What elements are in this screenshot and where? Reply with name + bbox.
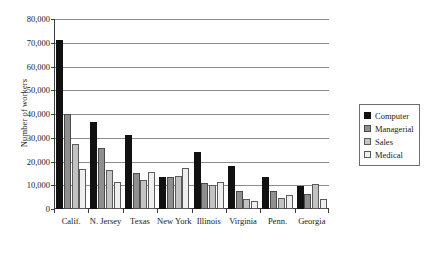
bar-medical [182,168,189,209]
bar-group: New York [157,19,191,209]
bar-group: Virginia [226,19,260,209]
y-axis-tick-label: 60,000 [27,62,50,72]
bar-computer [56,40,63,209]
clipped-caption-strip [0,248,441,262]
x-axis-tick-mark [260,209,261,213]
bar-managerial [133,173,140,209]
legend-label: Sales [375,137,393,147]
bar-computer [262,177,269,209]
x-axis-tick-mark [157,209,158,213]
legend-label: Medical [375,150,403,160]
bar-computer [297,186,304,210]
y-axis-tick-label: 0 [46,204,50,214]
bar-chart-figure: Number of workers 010,00020,00030,00040,… [0,0,441,262]
legend-item: Medical [364,148,414,161]
legend-label: Managerial [375,124,414,134]
bar-computer [90,122,97,209]
bar-managerial [98,148,105,209]
x-axis-tick-label: N. Jersey [90,216,122,226]
bar-managerial [64,114,71,209]
bar-medical [320,199,327,209]
bar-sales [312,184,319,209]
y-axis-tick-label: 20,000 [27,157,50,167]
x-axis-tick-mark [295,209,296,213]
bar-group: Calif. [54,19,88,209]
y-axis-tick-label: 50,000 [27,85,50,95]
legend-swatch-icon [364,125,371,132]
bar-group: N. Jersey [88,19,122,209]
x-axis-tick-mark [192,209,193,213]
y-axis-tick-label: 70,000 [27,38,50,48]
legend-swatch-icon [364,112,371,119]
bar-computer [194,152,201,209]
x-axis-tick-label: Calif. [62,216,81,226]
x-axis-tick-label: Virginia [229,216,257,226]
legend-swatch-icon [364,151,371,158]
bar-managerial [167,177,174,209]
bar-sales [209,185,216,209]
bar-group: Illinois [192,19,226,209]
bar-sales [278,198,285,209]
x-axis-tick-mark [226,209,227,213]
y-axis-tick-label: 80,000 [27,14,50,24]
y-axis-tick-label: 10,000 [27,180,50,190]
x-axis-tick-label: New York [157,216,191,226]
bar-computer [125,135,132,209]
legend-label: Computer [375,111,409,121]
bar-sales [106,170,113,209]
bar-medical [251,201,258,209]
bar-group: Texas [123,19,157,209]
x-axis-tick-label: Penn. [268,216,287,226]
legend-item: Managerial [364,122,414,135]
bar-medical [148,172,155,209]
plot-area: 010,00020,00030,00040,00050,00060,00070,… [54,19,329,209]
bar-sales [72,144,79,209]
bar-medical [286,195,293,209]
x-axis-tick-label: Texas [130,216,150,226]
legend-swatch-icon [364,138,371,145]
x-axis-tick-label: Illinois [197,216,221,226]
y-axis-tick-label: 40,000 [27,109,50,119]
bar-sales [140,180,147,209]
bar-sales [175,176,182,209]
x-axis-tick-mark [88,209,89,213]
bar-medical [79,169,86,209]
bar-groups: Calif.N. JerseyTexasNew YorkIllinoisVirg… [54,19,329,209]
bar-medical [217,182,224,209]
bar-computer [228,166,235,209]
clipped-caption-text [10,248,435,249]
bar-managerial [304,194,311,209]
chart-legend: ComputerManagerialSalesMedical [359,104,420,166]
bar-group: Penn. [260,19,294,209]
bar-group: Georgia [295,19,329,209]
bar-medical [114,182,121,209]
x-axis-tick-mark [123,209,124,213]
x-axis-tick-mark [328,209,329,213]
bar-computer [159,177,166,209]
bar-sales [243,199,250,209]
bar-managerial [236,191,243,209]
bar-managerial [270,191,277,209]
legend-item: Sales [364,135,414,148]
legend-item: Computer [364,109,414,122]
bar-managerial [201,183,208,209]
x-axis-tick-label: Georgia [298,216,325,226]
x-axis-tick-mark [54,209,55,213]
y-axis-tick-label: 30,000 [27,133,50,143]
